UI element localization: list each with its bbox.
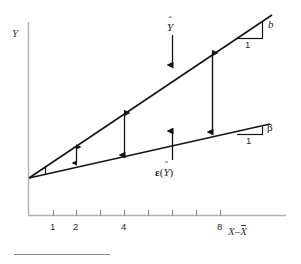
y-hat-callout-label: Yˆ <box>167 22 173 33</box>
tick-label-8: 8 <box>217 222 222 232</box>
expected-y-inner: Yˆ <box>163 167 169 178</box>
slope-label-beta: β <box>267 122 273 133</box>
slope-run-label-b: 1 <box>245 40 250 50</box>
regression-slope-diagram: Y X–X 1 2 4 8 b 1 β 1 Yˆ ε(Yˆ) <box>0 0 301 264</box>
hat-mark-y: ˆ <box>168 16 171 26</box>
expected-y-callout-label: ε(Yˆ) <box>155 167 173 178</box>
slope-label-b: b <box>268 19 274 30</box>
slope-run-label-beta: 1 <box>246 136 251 146</box>
x-axis-label-x: X <box>228 225 235 237</box>
x-axis-label: X–X <box>228 226 247 237</box>
axes-group <box>28 22 286 216</box>
tick-label-1: 1 <box>50 222 55 232</box>
tick-label-2: 2 <box>73 222 78 232</box>
expected-y-line <box>29 124 270 178</box>
y-hat-line <box>29 15 272 178</box>
paren-close: ) <box>170 166 174 178</box>
diagram-canvas <box>0 0 301 264</box>
tick-label-4: 4 <box>121 222 126 232</box>
x-axis-label-xbar: X <box>240 226 247 237</box>
hat-mark-expected-y: ˆ <box>165 161 168 171</box>
y-axis-label: Y <box>12 28 18 39</box>
regression-lines <box>29 15 272 178</box>
y-hat-text: Yˆ <box>167 22 173 33</box>
